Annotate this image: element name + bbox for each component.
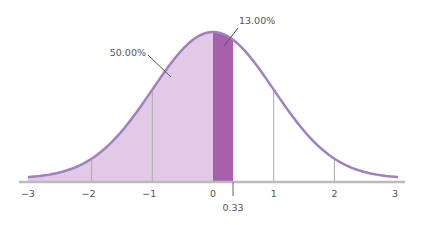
tick-label: 3 [392,188,398,199]
tick-label: 2 [331,188,337,199]
tick-label: 0 [210,188,216,199]
normal-distribution-chart: −3 −2 −1 0 1 2 3 0.33 50.00% 13.00% [0,0,425,225]
marker-label: 0.33 [222,202,243,213]
tick-label: −3 [21,188,35,199]
tick-label: −1 [142,188,156,199]
annotation-left-area: 50.00% [110,47,146,58]
annotation-band-area: 13.00% [239,15,275,26]
band-shaded-area [213,32,233,182]
tick-label: −2 [82,188,96,199]
tick-label: 1 [271,188,277,199]
x-tick-labels: −3 −2 −1 0 1 2 3 [21,188,398,199]
